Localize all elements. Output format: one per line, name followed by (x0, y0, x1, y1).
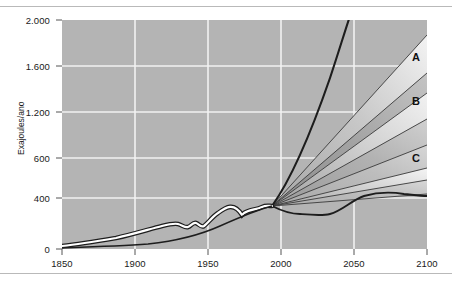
x-tick-label-2000: 2000 (259, 258, 303, 269)
chart-canvas (0, 0, 452, 281)
figure-container: Exajoules/ano 2.000 1.600 1.200 600 400 … (0, 0, 452, 281)
x-tick-label-2100: 2100 (405, 258, 449, 269)
x-tick-marks (62, 249, 427, 255)
y-tick-label-0: 0 (10, 244, 50, 255)
x-tick-label-1850: 1850 (40, 258, 84, 269)
x-tick-label-2050: 2050 (332, 258, 376, 269)
y-tick-label-2000: 2.000 (10, 15, 50, 26)
band-label-c: C (412, 152, 420, 164)
y-tick-label-1200: 1.200 (10, 107, 50, 118)
band-label-b: B (412, 95, 420, 107)
band-label-a: A (412, 51, 420, 63)
x-tick-label-1900: 1900 (113, 258, 157, 269)
y-tick-label-400: 400 (10, 193, 50, 204)
x-tick-label-1950: 1950 (186, 258, 230, 269)
y-tick-label-600: 600 (10, 153, 50, 164)
y-tick-label-1600: 1.600 (10, 61, 50, 72)
y-tick-marks (56, 20, 62, 249)
